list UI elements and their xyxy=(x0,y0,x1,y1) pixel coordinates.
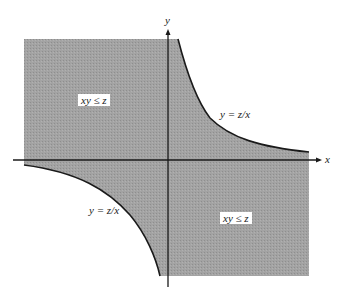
curve-label-upper: y = z/x xyxy=(220,108,250,120)
diagram-canvas xyxy=(0,0,344,299)
region-label-upper-left: xy ≤ z xyxy=(78,94,110,106)
shaded-region xyxy=(24,39,309,276)
y-axis-label: y xyxy=(165,14,170,26)
hyperbola-region-diagram: y x xy ≤ z xy ≤ z y = z/x y = z/x xyxy=(0,0,344,299)
region-label-lower-right: xy ≤ z xyxy=(220,212,252,224)
x-axis-arrow-icon xyxy=(316,158,322,163)
y-axis-arrow-icon xyxy=(166,29,171,35)
curve-label-lower: y = z/x xyxy=(89,204,119,216)
x-axis-label: x xyxy=(325,153,330,165)
